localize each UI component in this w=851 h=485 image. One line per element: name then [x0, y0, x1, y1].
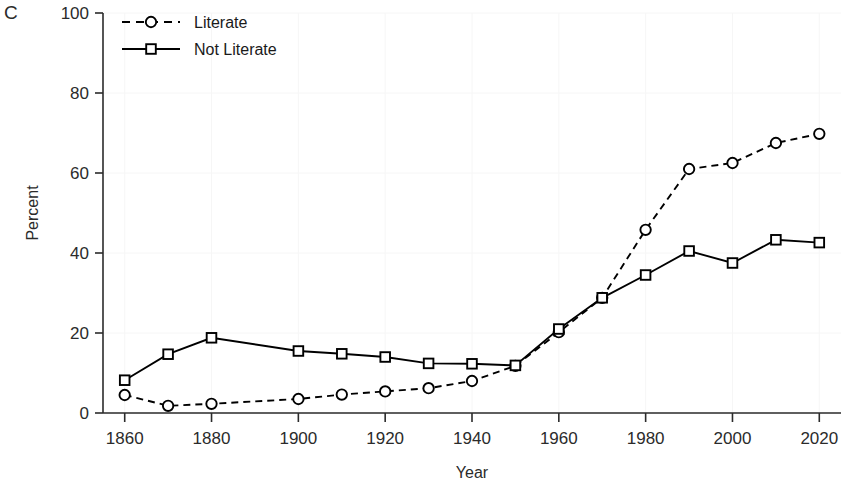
legend-marker-square — [146, 44, 156, 54]
x-tick-label: 1960 — [540, 429, 578, 448]
figure-panel-c: C 020406080100 1860188019001920194019601… — [0, 0, 851, 485]
y-tick-label: 100 — [61, 4, 89, 23]
data-point-marker-square — [337, 349, 347, 359]
data-point-marker-circle — [423, 383, 433, 393]
data-point-marker-square — [120, 375, 130, 385]
data-point-marker-circle — [467, 376, 477, 386]
y-axis-title: Percent — [24, 185, 41, 241]
x-axis-title: Year — [456, 464, 489, 481]
panel-label: C — [4, 2, 18, 24]
data-point-marker-circle — [337, 389, 347, 399]
x-axis-ticks: 186018801900192019401960198020002020 — [106, 413, 838, 448]
data-point-marker-square — [728, 258, 738, 268]
y-tick-label: 40 — [70, 244, 89, 263]
x-tick-label: 1900 — [279, 429, 317, 448]
data-point-marker-circle — [771, 138, 781, 148]
data-point-marker-circle — [206, 399, 216, 409]
data-point-marker-square — [684, 246, 694, 256]
y-axis-ticks: 020406080100 — [61, 4, 103, 423]
x-tick-label: 1920 — [366, 429, 404, 448]
data-point-marker-circle — [684, 164, 694, 174]
legend-label: Not Literate — [194, 41, 277, 58]
y-tick-label: 0 — [80, 404, 89, 423]
data-point-marker-square — [641, 270, 651, 280]
data-point-marker-circle — [727, 158, 737, 168]
data-point-marker-square — [294, 346, 304, 356]
y-tick-label: 60 — [70, 164, 89, 183]
legend-marker-circle — [146, 17, 156, 27]
data-point-marker-circle — [163, 401, 173, 411]
data-point-marker-square — [380, 352, 390, 362]
x-tick-label: 2020 — [800, 429, 838, 448]
x-tick-label: 1980 — [627, 429, 665, 448]
line-chart: 020406080100 186018801900192019401960198… — [0, 0, 851, 485]
data-point-marker-square — [207, 333, 217, 343]
x-tick-label: 1940 — [453, 429, 491, 448]
x-tick-label: 1880 — [193, 429, 231, 448]
data-point-marker-circle — [814, 129, 824, 139]
data-point-marker-square — [163, 349, 173, 359]
data-point-marker-square — [511, 361, 521, 371]
data-point-marker-square — [467, 359, 477, 369]
data-point-marker-square — [424, 359, 434, 369]
data-point-marker-circle — [380, 386, 390, 396]
data-point-marker-square — [597, 293, 607, 303]
data-point-marker-square — [554, 324, 564, 334]
x-tick-label: 1860 — [106, 429, 144, 448]
data-point-marker-circle — [640, 225, 650, 235]
x-tick-label: 2000 — [714, 429, 752, 448]
data-point-marker-square — [771, 235, 781, 245]
data-point-marker-square — [815, 238, 825, 248]
data-point-marker-circle — [293, 394, 303, 404]
legend-label: Literate — [194, 14, 247, 31]
y-tick-label: 80 — [70, 84, 89, 103]
y-tick-label: 20 — [70, 324, 89, 343]
data-point-marker-circle — [120, 390, 130, 400]
